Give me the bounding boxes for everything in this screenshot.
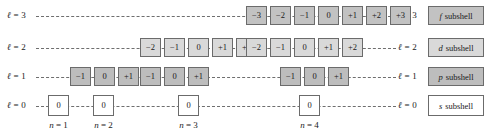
ml-box-p-n4-2: +1	[328, 67, 349, 86]
ml-box-p-n3-2: +1	[188, 67, 209, 86]
ml-box-f-n4-4: +1	[342, 6, 363, 25]
ml-box-f-n4-0: −3	[246, 6, 267, 25]
row-label-left-f: ℓ = 3	[7, 10, 26, 20]
row-label-right-d: ℓ = 2	[398, 42, 417, 52]
legend-text-p: subshell	[446, 72, 474, 82]
legend-text-f: subshell	[445, 11, 473, 21]
ml-box-f-n4-1: −2	[270, 6, 291, 25]
ml-box-p-n4-0: −1	[280, 67, 301, 86]
legend-text-d: subshell	[446, 43, 474, 53]
row-label-right-p: ℓ = 1	[398, 71, 417, 81]
ml-box-d-n4-0: −2	[246, 38, 267, 57]
ml-box-d-n4-3: +1	[318, 38, 339, 57]
legend-symbol-f: f	[439, 11, 441, 21]
ml-box-d-n4-1: −1	[270, 38, 291, 57]
ml-box-d-n3-0: −2	[140, 38, 161, 57]
ml-box-p-n3-1: 0	[164, 67, 185, 86]
ml-box-f-n4-5: +2	[366, 6, 387, 25]
ml-box-f-n4-6: +3	[390, 6, 411, 25]
legend-symbol-p: p	[438, 72, 442, 82]
ml-box-f-n4-2: −1	[294, 6, 315, 25]
n-label-3: n = 3	[169, 120, 209, 130]
ml-box-p-n3-0: −1	[140, 67, 161, 86]
row-label-right-s: ℓ = 0	[398, 100, 417, 110]
legend-p-subshell: psubshell	[428, 67, 484, 86]
ml-box-d-n3-2: 0	[188, 38, 209, 57]
row-label-left-s: ℓ = 0	[7, 100, 26, 110]
legend-symbol-s: s	[439, 101, 442, 111]
row-connector-s	[36, 106, 396, 107]
ml-box-s-n4-0: 0	[299, 95, 320, 116]
legend-s-subshell: ssubshell	[428, 95, 484, 116]
legend-text-s: subshell	[445, 101, 473, 111]
ml-box-s-n2-0: 0	[93, 95, 114, 116]
n-label-1: n = 1	[39, 120, 79, 130]
ml-box-d-n4-2: 0	[294, 38, 315, 57]
row-label-left-d: ℓ = 2	[7, 42, 26, 52]
ml-box-p-n2-2: +1	[118, 67, 139, 86]
ml-box-s-n3-0: 0	[178, 95, 199, 116]
n-label-4: n = 4	[290, 120, 330, 130]
n-label-2: n = 2	[84, 120, 124, 130]
legend-f-subshell: fsubshell	[428, 6, 484, 25]
ml-box-d-n3-3: +1	[212, 38, 233, 57]
ml-box-f-n4-3: 0	[318, 6, 339, 25]
ml-box-s-n1-0: 0	[48, 95, 69, 116]
subshell-diagram: ℓ = 3ℓ = 3fsubshell−3−2−10+1+2+3ℓ = 2ℓ =…	[0, 0, 487, 134]
legend-symbol-d: d	[438, 43, 442, 53]
ml-box-p-n2-0: −1	[70, 67, 91, 86]
ml-box-d-n3-1: −1	[164, 38, 185, 57]
ml-box-p-n4-1: 0	[304, 67, 325, 86]
legend-d-subshell: dsubshell	[428, 38, 484, 57]
row-label-left-p: ℓ = 1	[7, 71, 26, 81]
ml-box-d-n4-4: +2	[342, 38, 363, 57]
ml-box-p-n2-1: 0	[94, 67, 115, 86]
